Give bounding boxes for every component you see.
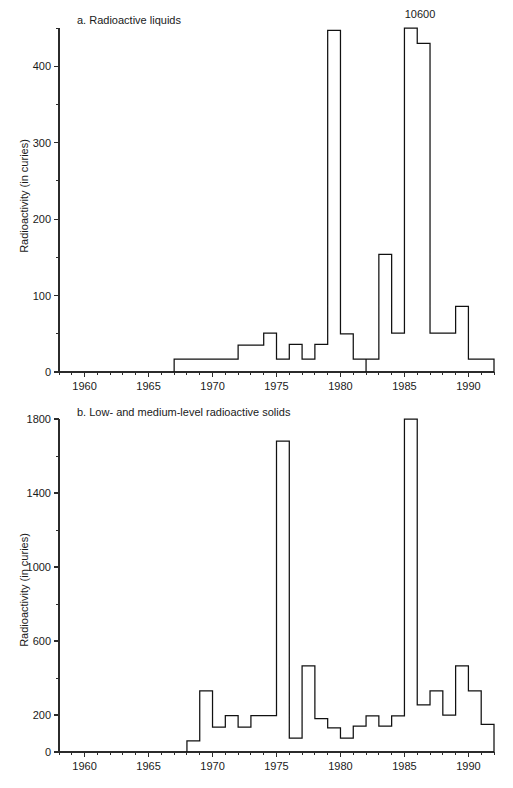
panel-b-y-axis-title: Radioactivity (in curies) — [18, 533, 30, 647]
svg-text:1990: 1990 — [456, 760, 480, 772]
panel-b-plot-area: b. Low- and medium-level radioactive sol… — [18, 406, 494, 772]
panel-a-peak-annotation: 10600 — [405, 8, 436, 20]
svg-text:1000: 1000 — [27, 561, 51, 573]
svg-text:1980: 1980 — [328, 380, 352, 392]
panel-b-ticks — [54, 419, 494, 757]
panel-b-title: b. Low- and medium-level radioactive sol… — [77, 406, 291, 418]
panel-a-ticks — [54, 28, 494, 377]
svg-text:400: 400 — [33, 60, 51, 72]
panel-b-data-series — [187, 419, 494, 752]
panel-a-data-series — [174, 28, 494, 372]
svg-text:1990: 1990 — [456, 380, 480, 392]
svg-text:600: 600 — [33, 635, 51, 647]
svg-text:1970: 1970 — [200, 760, 224, 772]
svg-text:1985: 1985 — [392, 760, 416, 772]
svg-text:0: 0 — [45, 366, 51, 378]
svg-text:1965: 1965 — [136, 380, 160, 392]
svg-text:1965: 1965 — [136, 760, 160, 772]
svg-text:0: 0 — [45, 746, 51, 758]
svg-text:1980: 1980 — [328, 760, 352, 772]
svg-text:200: 200 — [33, 213, 51, 225]
svg-text:200: 200 — [33, 709, 51, 721]
svg-text:1960: 1960 — [72, 760, 96, 772]
svg-text:1800: 1800 — [27, 413, 51, 425]
panel-a-y-axis-title: Radioactivity (in curies) — [18, 139, 30, 253]
radioactive-solids-svg: b. Low- and medium-level radioactive sol… — [0, 394, 513, 788]
svg-text:1400: 1400 — [27, 487, 51, 499]
radioactive-liquids-svg: a. Radioactive liquids Radioactivity (in… — [0, 0, 513, 394]
svg-text:1975: 1975 — [264, 380, 288, 392]
svg-text:1985: 1985 — [392, 380, 416, 392]
panel-a-tick-labels: 0100200300400196019651970197519801985199… — [33, 60, 481, 392]
panel-b-tick-labels: 0200600100014001800196019651970197519801… — [27, 413, 481, 772]
chart-panel-radioactive-solids: b. Low- and medium-level radioactive sol… — [0, 394, 513, 788]
chart-panel-radioactive-liquids: a. Radioactive liquids Radioactivity (in… — [0, 0, 513, 394]
panel-a-axes — [59, 28, 494, 372]
svg-text:1970: 1970 — [200, 380, 224, 392]
svg-text:1960: 1960 — [72, 380, 96, 392]
panel-a-title: a. Radioactive liquids — [77, 14, 181, 26]
svg-text:300: 300 — [33, 137, 51, 149]
panel-a-plot-area: a. Radioactive liquids Radioactivity (in… — [18, 8, 494, 392]
svg-text:1975: 1975 — [264, 760, 288, 772]
svg-text:100: 100 — [33, 290, 51, 302]
